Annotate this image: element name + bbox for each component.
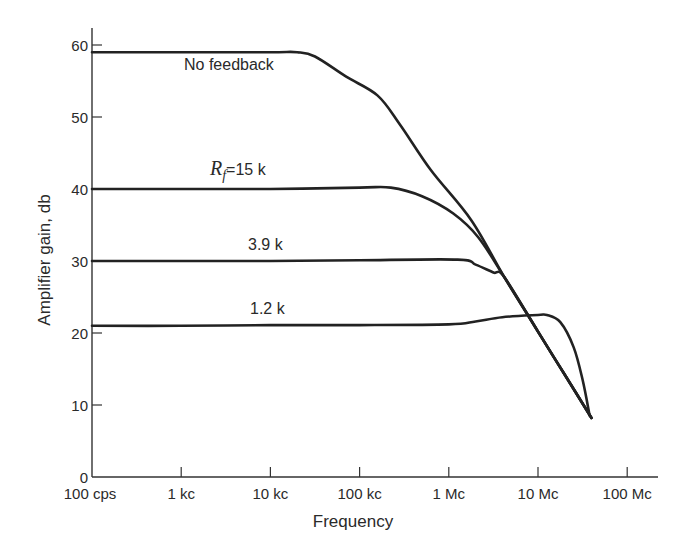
y-tick-label: 60 bbox=[71, 37, 88, 54]
label-no-feedback: No feedback bbox=[184, 56, 275, 73]
x-tick-label: 10 kc bbox=[252, 485, 288, 502]
x-tick-label: 1 kc bbox=[167, 485, 195, 502]
y-tick-label: 20 bbox=[71, 325, 88, 342]
x-tick-label: 100 cps bbox=[64, 485, 117, 502]
x-axis-title: Frequency bbox=[313, 512, 394, 531]
x-ticks: 100 cps1 kc10 kc100 kc1 Mc10 Mc100 Mc bbox=[64, 467, 653, 502]
x-tick-label: 100 Mc bbox=[603, 485, 653, 502]
y-axis-title: Amplifier gain, db bbox=[35, 194, 54, 325]
y-tick-label: 30 bbox=[71, 253, 88, 270]
curve-3-9-k bbox=[92, 259, 592, 418]
y-tick-label: 0 bbox=[80, 469, 88, 486]
y-tick-label: 40 bbox=[71, 181, 88, 198]
label-rf-value: =15 k bbox=[226, 161, 267, 178]
curves bbox=[92, 52, 592, 418]
label-rf-15k: Rf=15 k bbox=[209, 157, 267, 183]
axes bbox=[92, 28, 658, 477]
label-1-2k: 1.2 k bbox=[250, 300, 286, 317]
curve-rf-15-k bbox=[92, 187, 592, 418]
curve-1-2-k bbox=[92, 314, 590, 415]
label-rf-main: R bbox=[209, 157, 222, 179]
y-tick-label: 10 bbox=[71, 397, 88, 414]
label-3-9k: 3.9 k bbox=[248, 236, 284, 253]
x-tick-label: 1 Mc bbox=[433, 485, 466, 502]
curve-no-feedback bbox=[92, 52, 592, 418]
amplifier-gain-chart: 0102030405060 100 cps1 kc10 kc100 kc1 Mc… bbox=[0, 0, 688, 555]
y-tick-label: 50 bbox=[71, 109, 88, 126]
x-tick-label: 10 Mc bbox=[518, 485, 559, 502]
x-tick-label: 100 kc bbox=[337, 485, 382, 502]
